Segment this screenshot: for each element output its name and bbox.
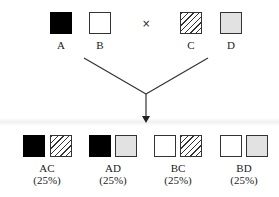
offspring-ad-label: AD — [93, 162, 133, 174]
offspring-bd-percent: (25%) — [224, 174, 264, 186]
offspring-ad-d-square — [115, 135, 137, 157]
offspring-ad-percent: (25%) — [93, 174, 133, 186]
offspring-bc-label: BC — [158, 162, 198, 174]
offspring-bd-b-square — [220, 135, 242, 157]
offspring-bc-c-square — [180, 135, 202, 157]
offspring-ac-label: AC — [27, 162, 67, 174]
offspring-bc-percent: (25%) — [158, 174, 198, 186]
offspring-ac-a-square — [23, 135, 45, 157]
offspring-ac-c-square — [50, 135, 72, 157]
offspring-bd-label: BD — [224, 162, 264, 174]
offspring-ac-percent: (25%) — [27, 174, 67, 186]
offspring-bc-b-square — [154, 135, 176, 157]
offspring-ad-a-square — [89, 135, 111, 157]
offspring-bd-d-square — [246, 135, 268, 157]
